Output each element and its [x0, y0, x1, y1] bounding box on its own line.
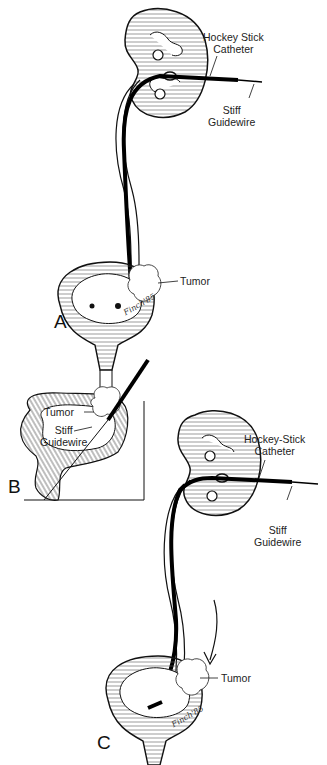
guidewire-label-line2: Guidewire — [40, 436, 87, 448]
guidewire-label-line1: Stiff — [254, 524, 301, 536]
panel-label-c: C — [97, 732, 111, 754]
guidewire-label-line2: Guidewire — [208, 116, 255, 128]
medical-illustration — [0, 0, 327, 765]
catheter-label-line2: Catheter — [244, 445, 305, 457]
label-stiff-guidewire-b: Stiff Guidewire — [40, 424, 87, 448]
label-tumor-b: Tumor — [44, 406, 74, 418]
label-hockey-stick-catheter-c: Hockey-Stick Catheter — [244, 433, 305, 457]
catheter-pointer-a — [210, 56, 217, 76]
label-stiff-guidewire-a: Stiff Guidewire — [208, 104, 255, 128]
label-hockey-stick-catheter-a: Hockey Stick Catheter — [203, 31, 264, 55]
panel-label-a: A — [54, 311, 67, 333]
guidewire-label-line1: Stiff — [40, 424, 87, 436]
catheter-label-line1: Hockey Stick — [203, 31, 264, 43]
panel-label-b: B — [8, 476, 21, 498]
guidewire-pointer-c — [287, 486, 292, 500]
label-stiff-guidewire-c: Stiff Guidewire — [254, 524, 301, 548]
guidewire-label-line2: Guidewire — [254, 536, 301, 548]
catheter-label-line2: Catheter — [203, 43, 264, 55]
label-tumor-a: Tumor — [180, 275, 210, 287]
catheter-label-line1: Hockey-Stick — [244, 433, 305, 445]
guidewire-label-line1: Stiff — [208, 104, 255, 116]
label-tumor-c: Tumor — [221, 672, 251, 684]
guidewire-pointer-a — [249, 84, 254, 98]
